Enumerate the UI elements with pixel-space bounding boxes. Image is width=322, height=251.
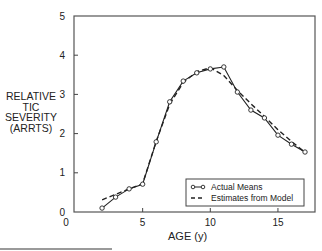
data-point-marker [289, 142, 293, 146]
y-tick-label: 4 [59, 50, 65, 61]
data-point-marker [235, 90, 239, 94]
x-tick-label: 10 [205, 217, 217, 228]
y-tick-label: 0 [59, 207, 65, 218]
data-point-marker [181, 79, 185, 83]
data-point-marker [276, 133, 280, 137]
data-point-marker [154, 140, 158, 144]
y-tick-label: 5 [59, 11, 65, 22]
data-point-marker [262, 116, 266, 120]
data-point-marker [140, 182, 144, 186]
data-point-marker [303, 150, 307, 154]
y-tick-label: 1 [59, 167, 65, 178]
chart-canvas: 012345051015 Actual Means Estimates from… [0, 0, 322, 251]
legend-open-circle-icon [191, 185, 195, 189]
y-tick-label: 3 [59, 89, 65, 100]
legend-label-actual-means: Actual Means [211, 182, 263, 192]
x-tick-label: 15 [272, 217, 284, 228]
legend-label-model-estimates: Estimates from Model [211, 193, 293, 203]
data-point-marker [249, 108, 253, 112]
x-tick-label: 0 [63, 217, 69, 228]
y-tick-label: 2 [59, 128, 65, 139]
data-point-marker [208, 67, 212, 71]
legend-open-circle-icon [201, 185, 205, 189]
x-tick-label: 5 [140, 217, 146, 228]
data-point-marker [195, 71, 199, 75]
data-point-marker [222, 65, 226, 69]
data-point-marker [127, 187, 131, 191]
data-point-marker [113, 195, 117, 199]
legend: Actual Means Estimates from Model [186, 179, 304, 206]
data-point-marker [100, 206, 104, 210]
data-point-marker [168, 100, 172, 104]
page-rule [0, 248, 112, 250]
